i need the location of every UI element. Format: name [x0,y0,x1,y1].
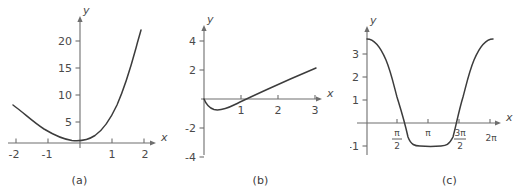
plot-panel-c: π 2 π 3π 2 2π -1 1 2 3 x y (c) [350,0,525,191]
plot-c-xtick-0-num: π [394,128,400,138]
plot-c-xtick-1: π [425,128,431,138]
plot-a-xtick-0: -2 [9,148,20,161]
plot-b-ytick-2: 2 [189,64,196,77]
plot-c-xtick-3: 2π [485,133,497,143]
plot-c-ytick-0: -1 [350,140,359,153]
plot-b-y-axis-label: y [206,13,214,26]
plot-c-x-axis-label: x [505,111,513,124]
plot-c-xtick-0-den: 2 [394,141,400,151]
plot-a-x-axis [8,139,156,146]
plot-c-caption: (c) [362,174,525,187]
plot-a-ytick-0: 5 [65,116,72,129]
plot-c-y-axis [363,26,370,155]
plot-b-y-axis [200,25,207,157]
plot-a-ytick-1: 10 [58,89,72,102]
plot-b-xtick-0: 1 [238,104,245,117]
plot-b-curve [204,68,316,110]
plot-a-ytick-3: 20 [58,35,72,48]
plot-b-caption: (b) [173,174,348,187]
plot-a-xtick-2: 1 [109,148,116,161]
plot-panel-a: -2 -1 1 2 5 10 15 20 x y (a) [0,0,175,191]
plot-a-svg: -2 -1 1 2 5 10 15 20 x y [0,0,175,170]
plot-b-ytick-3: 4 [189,35,196,48]
plot-b-xtick-2: 3 [312,104,319,117]
plot-b-x-axis-label: x [326,87,334,100]
plot-a-x-axis-label: x [160,131,168,144]
plot-c-xtick-2: 3π 2 [454,128,466,151]
plot-c-svg: π 2 π 3π 2 2π -1 1 2 3 x y [350,0,525,170]
plot-panel-b: 1 2 3 -4 -2 2 4 x y (b) [175,0,350,191]
plot-a-xtick-3: 2 [142,148,149,161]
plot-c-x-axis [357,119,501,126]
plot-b-x-axis [201,95,322,102]
plot-c-ytick-3: 3 [352,48,359,61]
plot-b-xtick-1: 2 [275,104,282,117]
plot-c-xtick-2-num: 3π [454,128,466,138]
plot-b-svg: 1 2 3 -4 -2 2 4 x y [175,0,350,170]
plot-a-caption: (a) [0,174,167,187]
plot-a-y-axis [76,16,83,148]
plot-b-ytick-0: -4 [185,151,196,164]
plot-b-ytick-1: -2 [185,122,196,135]
plot-c-ytick-2: 2 [352,71,359,84]
plot-a-curve [13,30,141,141]
plot-a-ytick-2: 15 [58,62,72,75]
plot-a-y-axis-label: y [82,4,90,17]
plot-a-xtick-1: -1 [42,148,53,161]
plot-c-xtick-0: π 2 [392,128,402,151]
figure-container: -2 -1 1 2 5 10 15 20 x y (a) [0,0,525,191]
plot-c-y-axis-label: y [369,14,377,27]
plot-c-xtick-2-den: 2 [457,141,463,151]
plot-c-ytick-1: 1 [352,94,359,107]
